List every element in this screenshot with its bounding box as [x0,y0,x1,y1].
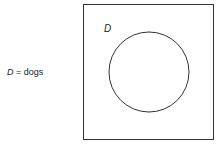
set-d-circle [109,32,189,112]
set-d-label: D [104,23,111,34]
universal-set-rectangle [84,5,214,140]
venn-diagram [0,0,223,150]
